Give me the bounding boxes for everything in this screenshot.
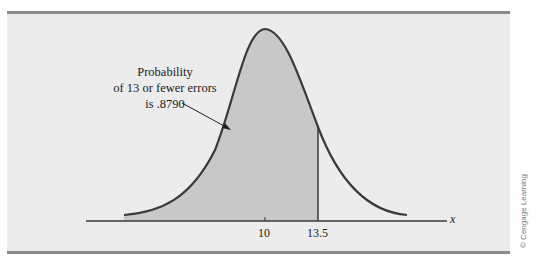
annotation-line-3: is .8790 [100, 96, 230, 112]
x-axis-label: x [450, 212, 455, 227]
probability-annotation: Probability of 13 or fewer errors is .87… [100, 64, 230, 112]
tick-label-cutoff: 13.5 [307, 226, 328, 241]
normal-curve-chart [0, 0, 547, 263]
annotation-line-2: of 13 or fewer errors [100, 80, 230, 96]
shaded-probability-area [124, 29, 318, 221]
annotation-line-1: Probability [100, 64, 230, 80]
copyright-credit: © Cengage Learning [519, 174, 528, 248]
tick-label-mean: 10 [258, 226, 270, 241]
